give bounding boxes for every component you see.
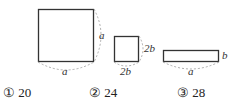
square-2b-shape [115, 37, 139, 62]
bottom-side-label: a [188, 65, 194, 77]
option-3: ③ 28 [177, 85, 205, 101]
option-marker: ③ [177, 85, 189, 100]
figure-rectangle-a-b: b a [163, 49, 228, 77]
figure-square-a: a a [38, 9, 105, 77]
right-brace-arc [139, 36, 143, 62]
right-side-label: a [99, 29, 105, 41]
option-value: 24 [104, 85, 117, 100]
square-a-shape [39, 10, 94, 62]
bottom-side-label: a [62, 65, 68, 77]
rectangle-shape [164, 51, 219, 62]
figure-square-2b: 2b 2b [114, 36, 156, 77]
right-side-label: 2b [144, 42, 156, 54]
option-value: 20 [18, 85, 31, 100]
option-marker: ① [3, 85, 15, 100]
option-1: ① 20 [3, 85, 31, 101]
right-side-label: b [222, 49, 228, 61]
option-2: ② 24 [89, 85, 117, 101]
bottom-side-label: 2b [120, 65, 132, 77]
option-marker: ② [89, 85, 101, 100]
option-value: 28 [192, 85, 205, 100]
